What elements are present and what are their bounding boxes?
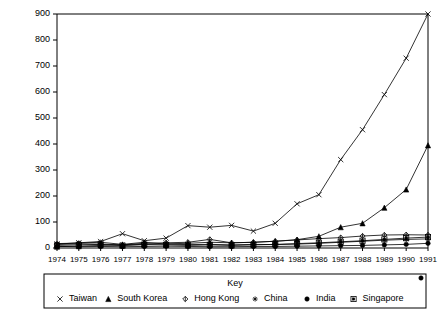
legend-item-label: Singapore [363,293,404,303]
marker-circle [360,243,364,247]
marker-square-core [361,240,363,242]
line-chart: 0100200300400500600700800900197419751976… [0,0,438,316]
marker-cross [404,56,409,61]
y-tick-label: 900 [35,8,50,18]
marker-square-core [121,245,123,247]
marker-square-core [230,244,232,246]
legend-item-label: South Korea [117,293,167,303]
marker-star [253,296,258,301]
x-tick-label: 1990 [397,255,415,264]
marker-triangle [404,187,409,192]
marker-cross [382,92,387,97]
x-tick-label: 1978 [135,255,153,264]
x-tick-label: 1982 [223,255,241,264]
series-taiwan [54,11,430,246]
legend-item-label: India [316,293,336,303]
y-tick-label: 700 [35,60,50,70]
x-tick-label: 1984 [266,255,284,264]
chart-canvas: 0100200300400500600700800900197419751976… [0,0,438,316]
marker-square-core [383,238,385,240]
y-tick-label: 0 [45,242,50,252]
x-tick-label: 1980 [179,255,197,264]
x-tick-label: 1983 [245,255,263,264]
series-south-korea [54,143,430,250]
y-tick-label: 400 [35,138,50,148]
marker-square-core [296,242,298,244]
x-tick-label: 1977 [114,255,132,264]
x-tick-label: 1976 [92,255,110,264]
marker-circle [305,297,309,301]
marker-triangle [425,143,430,148]
marker-square-core [340,241,342,243]
marker-cross [294,201,299,206]
y-tick-label: 600 [35,86,50,96]
y-tick-label: 100 [35,216,50,226]
x-tick-label: 1981 [201,255,219,264]
marker-square-core [352,298,354,300]
x-tick-label: 1991 [419,255,437,264]
marker-square-core [100,243,102,245]
marker-circle [317,244,321,248]
x-tick-label: 1986 [310,255,328,264]
marker-circle [404,242,408,246]
marker-square-core [252,244,254,246]
marker-square-core [427,236,429,238]
x-tick-label: 1988 [354,255,372,264]
marker-square-core [318,242,320,244]
y-tick-label: 200 [35,190,50,200]
x-tick-label: 1979 [157,255,175,264]
x-tick-label: 1989 [375,255,393,264]
x-tick-label: 1985 [288,255,306,264]
marker-circle [426,241,430,245]
y-tick-label: 300 [35,164,50,174]
legend-title: Key [227,278,243,288]
legend: KeyTaiwanSouth KoreaHong KongChinaIndiaS… [44,274,426,308]
marker-cross [120,231,125,236]
legend-item-label: Hong Kong [194,293,239,303]
marker-square-core [405,237,407,239]
marker-cross [338,157,343,162]
x-tick-label: 1987 [332,255,350,264]
x-tick-label: 1974 [48,255,66,264]
marker-square-core [165,244,167,246]
y-tick-label: 500 [35,112,50,122]
marker-square-core [78,244,80,246]
marker-cross [360,127,365,132]
series-path [57,145,428,246]
marker-square-core [209,244,211,246]
marker-cross [273,221,278,226]
legend-item-label: China [264,293,288,303]
x-tick-label: 1975 [70,255,88,264]
marker-square-core [56,244,58,246]
marker-cross [316,192,321,197]
stray-marker-dot [419,276,423,280]
marker-square-core [274,243,276,245]
legend-item-label: Taiwan [69,293,97,303]
marker-square-core [187,244,189,246]
series-path [57,14,428,244]
y-tick-label: 800 [35,34,50,44]
marker-cross [251,229,256,234]
marker-square-core [143,244,145,246]
marker-circle [382,243,386,247]
